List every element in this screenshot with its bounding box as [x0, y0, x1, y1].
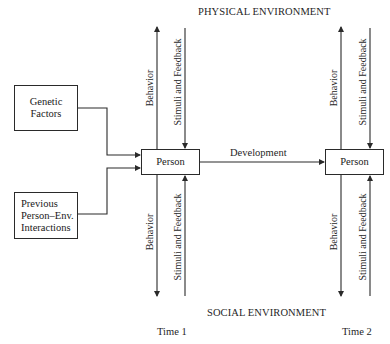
person-time2-label: Person — [340, 156, 369, 168]
previous-interactions-line-1: Previous — [21, 198, 74, 210]
t2-stimuli-lower-label: Stimuli and Feedback — [357, 193, 368, 280]
diagram-canvas: PHYSICAL ENVIRONMENT SOCIAL ENVIRONMENT … — [0, 0, 390, 344]
social-environment-label: SOCIAL ENVIRONMENT — [207, 307, 326, 318]
previous-to-person-arrow — [77, 168, 140, 214]
t2-stimuli-upper-label: Stimuli and Feedback — [357, 38, 368, 125]
time1-label: Time 1 — [157, 326, 187, 338]
genetic-factors-box: Genetic Factors — [14, 85, 78, 131]
t1-stimuli-upper-label: Stimuli and Feedback — [172, 38, 183, 125]
t2-behavior-lower-label: Behavior — [328, 214, 339, 251]
previous-interactions-box: Previous Person–Env. Interactions — [14, 192, 78, 239]
person-time1-box: Person — [141, 149, 200, 175]
t2-behavior-upper-label: Behavior — [328, 70, 339, 107]
t1-behavior-upper-label: Behavior — [144, 70, 155, 107]
time2-label: Time 2 — [342, 326, 372, 338]
t1-behavior-lower-label: Behavior — [144, 214, 155, 251]
person-time1-label: Person — [156, 156, 185, 168]
development-label: Development — [230, 147, 287, 159]
previous-interactions-line-2: Person–Env. — [21, 210, 74, 222]
t1-stimuli-lower-label: Stimuli and Feedback — [172, 193, 183, 280]
genetic-factors-line-1: Genetic — [30, 96, 63, 108]
physical-environment-label: PHYSICAL ENVIRONMENT — [198, 6, 331, 17]
genetic-to-person-arrow — [77, 108, 140, 155]
genetic-factors-line-2: Factors — [30, 108, 63, 120]
previous-interactions-line-3: Interactions — [21, 222, 74, 234]
person-time2-box: Person — [325, 149, 384, 175]
